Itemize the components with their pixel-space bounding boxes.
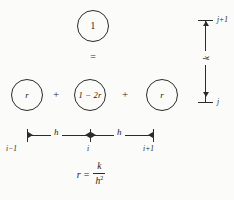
plus-operator-1: + — [50, 89, 62, 100]
arrow-down-icon — [203, 92, 209, 97]
formula-denominator-exponent: 2 — [100, 175, 103, 181]
space-axis-label-i-minus-1: i−1 — [6, 144, 17, 153]
space-step-label-left: h — [51, 127, 62, 137]
stencil-operand-label-right: r — [160, 90, 164, 100]
space-step-label-right: h — [114, 127, 125, 137]
time-step-label: k — [200, 51, 212, 65]
space-axis: h h i−1 i i+1 — [0, 126, 180, 156]
formula-denominator: h2 — [93, 174, 105, 187]
space-axis-label-i: i — [87, 144, 89, 153]
space-axis-tick-right — [153, 129, 154, 142]
arrow-right-icon — [28, 132, 33, 138]
space-axis-label-i-plus-1: i+1 — [143, 144, 154, 153]
formula-variable: r — [77, 169, 81, 180]
time-axis-label-j-plus-1: j+1 — [217, 15, 228, 24]
stencil-result-node: 1 — [77, 10, 109, 42]
stencil-result-node-label: 1 — [91, 21, 96, 31]
stencil-operand-node-center: 1 − 2r — [74, 79, 106, 111]
formula-equals: = — [84, 169, 90, 180]
time-axis-label-j: j — [217, 97, 219, 106]
time-axis-tick-bottom — [198, 102, 213, 103]
arrow-right-icon — [91, 132, 96, 138]
stencil-operand-node-left: r — [11, 79, 43, 111]
stencil-figure: 1 = r + 1 − 2r + r h h i−1 i i+1 — [0, 0, 234, 200]
arrow-left-icon — [148, 132, 153, 138]
time-axis: k j+1 j — [196, 14, 234, 110]
stencil-operand-node-right: r — [146, 79, 178, 111]
plus-operator-2: + — [119, 89, 131, 100]
relation-equals-symbol: = — [86, 52, 100, 62]
formula-numerator: k — [95, 162, 103, 173]
arrow-left-icon — [85, 132, 90, 138]
stencil-operand-label-left: r — [25, 90, 29, 100]
ratio-formula: r = k h2 — [0, 162, 182, 186]
stencil-operand-label-center: 1 − 2r — [79, 90, 102, 100]
arrow-up-icon — [203, 21, 209, 26]
formula-fraction: k h2 — [93, 162, 105, 186]
